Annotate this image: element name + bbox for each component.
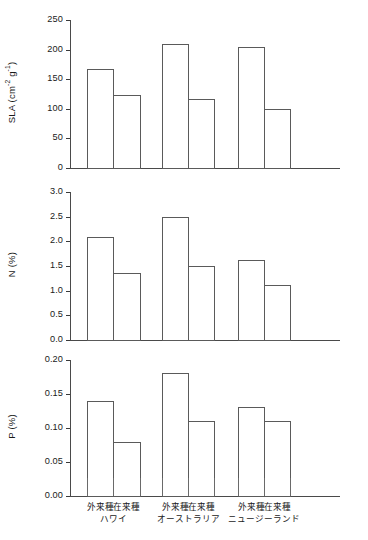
category-tick — [162, 478, 163, 496]
y-axis-line-p — [70, 360, 71, 497]
y-tick-label: 0.15 — [20, 388, 63, 398]
category-tick — [87, 478, 88, 496]
category-tick — [264, 478, 265, 496]
y-tick-label: 0.00 — [20, 490, 63, 500]
y-tick-mark — [66, 462, 70, 463]
y-axis-title-p: P (%) — [6, 382, 17, 472]
bar — [113, 442, 141, 497]
bar — [238, 407, 265, 497]
category-tick — [113, 478, 114, 496]
category-label: 在来種 — [102, 500, 150, 512]
bar-chart-figure: 050100150200250SLA (cm-2 g-1)0.00.51.01.… — [0, 0, 368, 540]
y-tick-mark — [66, 496, 70, 497]
y-tick-label: 0.10 — [20, 422, 63, 432]
category-tick — [214, 478, 215, 496]
y-tick-mark — [66, 360, 70, 361]
group-label: ニュージーランド — [219, 512, 309, 524]
y-tick-label: 0.05 — [20, 456, 63, 466]
bar — [188, 421, 215, 497]
bar — [87, 401, 114, 497]
category-label: 在来種 — [253, 500, 301, 512]
bar — [162, 373, 189, 497]
bar — [264, 421, 291, 497]
category-tick — [290, 478, 291, 496]
y-tick-label: 0.20 — [20, 354, 63, 364]
category-tick — [140, 478, 141, 496]
y-tick-mark — [66, 394, 70, 395]
category-label: 在来種 — [177, 500, 225, 512]
panel-p: 0.000.050.100.150.20P (%) — [0, 0, 368, 540]
y-tick-mark — [66, 428, 70, 429]
category-tick — [238, 478, 239, 496]
category-tick — [188, 478, 189, 496]
